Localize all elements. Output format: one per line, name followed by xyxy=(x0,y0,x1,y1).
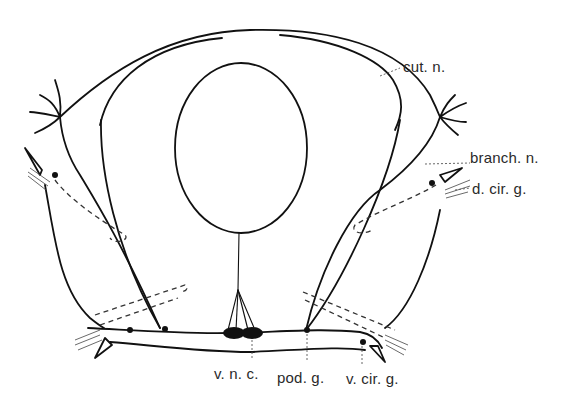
left-dorsal-cirrus xyxy=(25,148,42,175)
label-pod-g: pod. g. xyxy=(277,369,324,386)
dorsal-cirrus-ganglion-right xyxy=(429,180,435,186)
gut-oval xyxy=(175,63,307,233)
dorsal-cirrus-ganglion-left xyxy=(52,172,58,178)
left-parapodium xyxy=(45,185,104,328)
leader-branch-n xyxy=(425,163,470,164)
right-chaetae xyxy=(385,180,470,355)
diagram-drawing xyxy=(0,0,579,404)
ventral-lower-line xyxy=(110,342,365,352)
pedal-ganglion-left xyxy=(127,327,133,333)
mesentery-strand xyxy=(228,233,239,330)
cutaneous-nerve-arc xyxy=(100,38,222,125)
outer-body-wall xyxy=(60,30,440,117)
label-v-n-c: v. n. c. xyxy=(214,365,259,382)
right-parapodium xyxy=(385,210,440,328)
ventral-cirrus-ganglion-right xyxy=(360,339,366,345)
left-branchia xyxy=(30,80,61,133)
left-chaetae xyxy=(28,168,102,350)
annelid-cross-section-diagram: cut. n. branch. n. d. cir. g. v. n. c. p… xyxy=(0,0,579,404)
left-body-wall xyxy=(101,120,160,328)
label-branch-n: branch. n. xyxy=(470,149,539,166)
cutaneous-nerve-arc-right xyxy=(280,35,401,130)
left-ventral-cirrus xyxy=(95,338,112,358)
label-v-cir-g: v. cir. g. xyxy=(346,370,399,387)
right-dorsal-cirrus xyxy=(440,168,462,182)
label-cut-n: cut. n. xyxy=(403,58,445,75)
label-d-cir-g: d. cir. g. xyxy=(472,180,527,197)
ventral-nerve-cord-ganglion-right xyxy=(241,327,263,339)
right-branchia xyxy=(440,95,466,135)
